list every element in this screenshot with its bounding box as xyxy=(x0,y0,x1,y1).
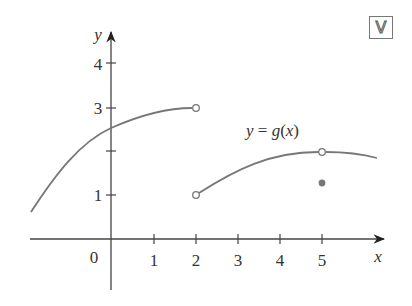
y-tick-label-4: 4 xyxy=(94,55,103,74)
curve-label: y = g(x) xyxy=(244,121,299,140)
x-tick-label-0: 0 xyxy=(90,248,99,267)
curve-right-piece xyxy=(199,152,318,193)
graph-of-g: 0 1 2 3 4 5 1 3 4 x y y = g(x) xyxy=(0,0,412,306)
filled-point-5 xyxy=(319,180,326,187)
x-tick-label-4: 4 xyxy=(276,251,285,270)
x-axis-label: x xyxy=(373,247,382,266)
curve-right-piece-tail xyxy=(326,152,377,158)
y-tick-label-1: 1 xyxy=(94,186,103,205)
x-tick-label-2: 2 xyxy=(192,251,201,270)
x-tick-label-3: 3 xyxy=(234,251,243,270)
open-point-2-1 xyxy=(193,192,200,199)
open-point-5-2 xyxy=(319,149,326,156)
y-tick-label-3: 3 xyxy=(94,99,103,118)
x-tick-label-1: 1 xyxy=(150,251,159,270)
v-badge-icon: V xyxy=(369,16,393,39)
x-tick-label-5: 5 xyxy=(318,251,327,270)
open-point-2-3 xyxy=(193,105,200,112)
y-axis-label: y xyxy=(92,25,102,44)
